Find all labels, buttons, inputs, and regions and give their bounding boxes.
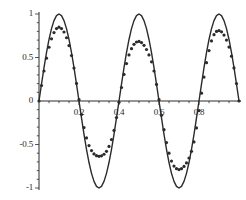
data-point-marker [52,31,55,34]
data-point-marker [212,33,215,36]
data-point-marker [152,69,155,72]
data-point-marker [207,49,210,52]
x-tick-label: 0.2 [65,108,93,117]
x-tick-label: 0.4 [105,108,133,117]
data-point-marker [65,36,68,39]
series-approximation-curve [37,26,240,172]
data-point-marker [202,75,205,78]
data-point-marker [227,45,230,48]
data-point-marker [72,67,75,70]
data-point-marker [142,44,145,47]
x-tick-label: 0.6 [145,108,173,117]
data-point-marker [230,55,233,58]
data-point-marker [157,98,160,101]
data-point-marker [107,145,110,148]
data-point-marker [40,84,43,87]
data-point-marker [87,144,90,147]
y-tick-label: 1 [0,9,33,18]
data-point-marker [105,150,108,153]
data-point-marker [37,99,40,102]
data-point-marker [62,30,65,33]
data-point-marker [165,141,168,144]
chart-figure: 0.20.40.60.8 -1-0.500.51 [0,0,246,200]
data-point-marker [50,37,53,40]
data-point-marker [225,39,228,42]
data-point-marker [70,54,73,57]
data-point-marker [170,159,173,162]
data-point-marker [155,83,158,86]
data-point-marker [192,140,195,143]
data-point-marker [205,61,208,64]
data-point-marker [67,44,70,47]
y-tick-label: -1 [0,183,33,192]
data-point-marker [130,47,133,50]
horizontal-axis-ticks [49,101,229,105]
data-point-marker [140,41,143,44]
data-point-marker [167,152,170,155]
data-point-marker [187,156,190,159]
y-tick-label: 0 [0,96,33,105]
data-point-marker [235,82,238,85]
data-point-marker [85,136,88,139]
x-tick-label: 0.8 [185,108,213,117]
data-point-marker [172,164,175,167]
data-point-marker [195,126,198,129]
plot-canvas [0,0,246,200]
data-point-marker [220,30,223,33]
data-point-marker [112,129,115,132]
data-point-marker [110,138,113,141]
data-point-marker [75,82,78,85]
y-tick-label: -0.5 [0,140,33,149]
data-point-marker [180,167,183,170]
data-point-marker [237,99,240,102]
data-point-marker [145,48,148,51]
data-point-marker [125,62,128,65]
data-point-marker [77,98,80,101]
data-point-marker [82,126,85,129]
data-point-marker [127,53,130,56]
data-point-marker [222,33,225,36]
data-point-marker [162,128,165,131]
data-point-marker [90,149,93,152]
data-point-marker [42,69,45,72]
data-point-marker [232,66,235,69]
y-tick-label: 0.5 [0,53,33,62]
data-point-marker [147,53,150,56]
data-point-marker [102,153,105,156]
data-point-marker [200,92,203,95]
data-point-marker [132,43,135,46]
data-point-marker [185,161,188,164]
data-point-marker [120,86,123,89]
data-point-marker [210,39,213,42]
data-point-marker [190,150,193,153]
data-point-marker [117,101,120,104]
data-point-marker [122,73,125,76]
data-point-marker [60,27,63,30]
data-point-marker [150,60,153,63]
data-point-marker [182,165,185,168]
data-point-marker [45,57,48,60]
data-point-marker [47,46,50,49]
